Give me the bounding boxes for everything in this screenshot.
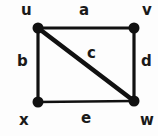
edge-label-d: d <box>141 54 152 69</box>
vertex-u <box>33 23 44 34</box>
vertex-label-w: w <box>140 113 154 128</box>
vertex-label-v: v <box>142 3 152 18</box>
graph-diagram: u v x w a b c d e <box>0 0 158 136</box>
vertex-label-x: x <box>19 113 29 128</box>
edge-label-e: e <box>81 111 91 126</box>
edge-e-x-w <box>38 101 134 102</box>
vertex-w <box>129 96 140 107</box>
edge-c-u-w <box>38 28 134 101</box>
edge-label-c: c <box>87 46 96 61</box>
edge-label-a: a <box>79 3 89 18</box>
edge-label-b: b <box>17 54 28 69</box>
vertex-x <box>33 97 44 108</box>
vertex-v <box>129 23 140 34</box>
vertex-label-u: u <box>21 3 32 18</box>
